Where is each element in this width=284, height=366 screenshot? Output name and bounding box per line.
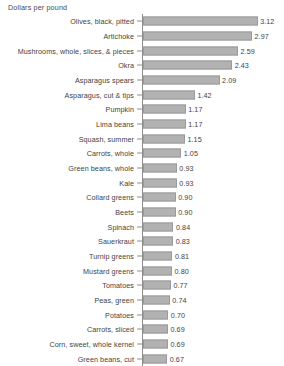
axis-caption: Dollars per pound <box>8 3 67 12</box>
bar <box>143 32 253 41</box>
bar <box>143 61 233 70</box>
bar <box>143 134 185 143</box>
bar <box>143 193 176 202</box>
category-label: Collard greens <box>86 193 134 202</box>
bar <box>143 252 173 261</box>
value-label: 0.90 <box>178 193 192 202</box>
category-label: Okra <box>118 61 134 70</box>
category-label: Potatoes <box>105 310 134 319</box>
category-label: Peas, green <box>94 296 134 305</box>
bar <box>143 90 195 99</box>
axis-tick <box>137 344 142 345</box>
category-label: Carrots, sliced <box>87 325 134 334</box>
bar <box>143 354 168 363</box>
bar-row: Tomatoes0.77 <box>0 278 284 293</box>
value-label: 0.69 <box>170 340 184 349</box>
category-label: Mushrooms, whole, slices, & pieces <box>18 46 134 55</box>
bar <box>143 17 258 26</box>
value-label: 0.69 <box>170 325 184 334</box>
bar-row: Sauerkraut0.83 <box>0 234 284 249</box>
value-label: 3.12 <box>260 17 274 26</box>
bar-row: Turnip greens0.81 <box>0 249 284 264</box>
axis-tick <box>137 94 142 95</box>
bar <box>143 266 173 275</box>
category-label: Olives, black, pitted <box>70 17 134 26</box>
axis-tick <box>137 168 142 169</box>
bar-row: Asparagus spears2.09 <box>0 73 284 88</box>
value-label: 1.17 <box>188 105 202 114</box>
axis-tick <box>137 182 142 183</box>
bar-row: Mustard greens0.80 <box>0 263 284 278</box>
bar-row: Collard greens0.90 <box>0 190 284 205</box>
category-label: Beets <box>115 208 134 217</box>
value-label: 2.97 <box>255 32 269 41</box>
bar-row: Corn, sweet, whole kernel0.69 <box>0 337 284 352</box>
bar-rows: Olives, black, pitted3.12Artichoke2.97Mu… <box>0 14 284 366</box>
value-label: 2.59 <box>241 46 255 55</box>
value-label: 0.74 <box>172 296 186 305</box>
bar <box>143 281 171 290</box>
category-label: Corn, sweet, whole kernel <box>50 340 135 349</box>
category-label: Asparagus, cut & tips <box>65 90 134 99</box>
bar-row: Potatoes0.70 <box>0 307 284 322</box>
axis-tick <box>137 197 142 198</box>
bar-row: Lima beans1.17 <box>0 117 284 132</box>
bar-row: Artichoke2.97 <box>0 29 284 44</box>
axis-tick <box>137 256 142 257</box>
value-label: 2.09 <box>222 76 236 85</box>
bar-row: Carrots, sliced0.69 <box>0 322 284 337</box>
bar <box>143 76 220 85</box>
bar-row: Okra2.43 <box>0 58 284 73</box>
bar-row: Kale0.93 <box>0 175 284 190</box>
value-label: 1.15 <box>187 134 201 143</box>
value-label: 0.70 <box>171 310 185 319</box>
category-label: Green beans, cut <box>78 354 134 363</box>
category-label: Asparagus spears <box>75 76 134 85</box>
bar <box>143 310 169 319</box>
bar-row: Squash, summer1.15 <box>0 131 284 146</box>
bar <box>143 120 186 129</box>
category-label: Lima beans <box>96 120 134 129</box>
axis-tick <box>137 124 142 125</box>
category-label: Pumpkin <box>106 105 134 114</box>
category-label: Squash, summer <box>79 134 134 143</box>
axis-tick <box>137 21 142 22</box>
bar-row: Peas, green0.74 <box>0 293 284 308</box>
bar-row: Green beans, cut0.67 <box>0 351 284 366</box>
axis-tick <box>137 109 142 110</box>
value-label: 0.90 <box>178 208 192 217</box>
value-label: 0.81 <box>175 252 189 261</box>
bar-row: Green beans, whole0.93 <box>0 161 284 176</box>
axis-tick <box>137 241 142 242</box>
axis-tick <box>137 212 142 213</box>
axis-tick <box>137 65 142 66</box>
category-label: Spinach <box>108 222 134 231</box>
value-label: 1.42 <box>197 90 211 99</box>
bar-row: Beets0.90 <box>0 205 284 220</box>
bar-row: Carrots, whole1.05 <box>0 146 284 161</box>
category-label: Kale <box>119 178 134 187</box>
bar <box>143 325 168 334</box>
axis-tick <box>137 80 142 81</box>
bar-row: Mushrooms, whole, slices, & pieces2.59 <box>0 43 284 58</box>
value-label: 0.93 <box>179 178 193 187</box>
category-label: Tomatoes <box>102 281 134 290</box>
value-label: 0.84 <box>176 222 190 231</box>
axis-tick <box>137 138 142 139</box>
category-label: Sauerkraut <box>98 237 134 246</box>
plot-area: Olives, black, pitted3.12Artichoke2.97Mu… <box>0 14 284 366</box>
axis-tick <box>137 50 142 51</box>
axis-tick <box>137 358 142 359</box>
bar-row: Spinach0.84 <box>0 219 284 234</box>
value-label: 0.93 <box>179 164 193 173</box>
axis-tick <box>137 153 142 154</box>
bar <box>143 105 186 114</box>
bar <box>143 340 168 349</box>
value-label: 2.43 <box>235 61 249 70</box>
category-label: Artichoke <box>103 32 134 41</box>
axis-tick <box>137 329 142 330</box>
bar-row: Asparagus, cut & tips1.42 <box>0 87 284 102</box>
bar <box>143 149 182 158</box>
bar <box>143 296 170 305</box>
